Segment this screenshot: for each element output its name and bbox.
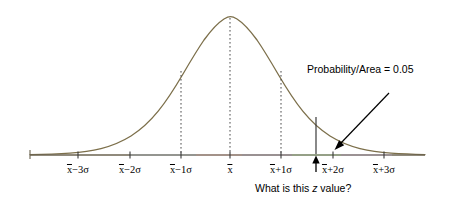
axis-label-minus-1-sigma: x−1σ [170, 163, 192, 175]
x-bar-symbol: x [119, 164, 124, 175]
axis-label-suffix: +2σ [327, 164, 344, 175]
x-bar-symbol: x [322, 164, 327, 175]
axis-label-suffix: −1σ [175, 164, 192, 175]
axis-label-suffix: −2σ [124, 164, 141, 175]
normal-distribution-figure: x−3σ x−2σ x−1σ x x+1σ x+2σ x+3σ Probabil… [0, 0, 460, 205]
axis-label-mean: x [227, 163, 232, 175]
z-value-question-caption: What is this z value? [255, 182, 351, 194]
x-bar-symbol: x [67, 164, 72, 175]
annotation-arrow-icon [335, 93, 390, 150]
axis-label-suffix: −3σ [72, 164, 89, 175]
axis-label-suffix: +1σ [275, 164, 292, 175]
axis-label-suffix: +3σ [378, 164, 395, 175]
x-bar-symbol: x [170, 164, 175, 175]
x-bar-symbol: x [373, 164, 378, 175]
z-value-up-arrow-icon [312, 156, 319, 173]
caption-part-2: value? [317, 182, 351, 194]
axis-label-minus-3-sigma: x−3σ [67, 163, 89, 175]
axis-label-plus-3-sigma: x+3σ [373, 163, 395, 175]
x-bar-symbol: x [270, 164, 275, 175]
axis-label-plus-2-sigma: x+2σ [322, 163, 344, 175]
x-bar-symbol: x [227, 164, 232, 175]
axis-label-plus-1-sigma: x+1σ [270, 163, 292, 175]
axis-label-minus-2-sigma: x−2σ [119, 163, 141, 175]
probability-area-annotation: Probability/Area = 0.05 [307, 63, 414, 75]
caption-part-1: What is this [255, 182, 312, 194]
normal-curve [30, 17, 425, 155]
